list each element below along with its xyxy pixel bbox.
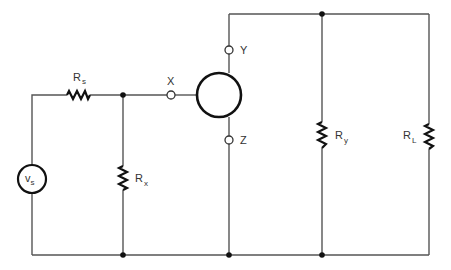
terminal-x [167, 91, 175, 99]
resistor-rs [67, 91, 90, 99]
label-terminal-y: Y [240, 44, 248, 56]
label-terminal-z: Z [240, 134, 247, 146]
terminal-y [225, 46, 233, 54]
circuit-diagram: vs Rs Rx Ry RL X Y Z [0, 0, 451, 270]
junction-nodes [120, 11, 325, 258]
resistor-rx [119, 166, 127, 190]
label-rl: RL [403, 129, 417, 145]
resistor-rl [425, 124, 433, 149]
label-rx: Rx [135, 172, 148, 188]
three-terminal-device [197, 73, 241, 117]
label-ry: Ry [335, 129, 348, 145]
terminal-z [225, 136, 233, 144]
resistor-ry [318, 122, 326, 148]
label-terminal-x: X [167, 75, 175, 87]
label-rs: Rs [73, 71, 86, 86]
